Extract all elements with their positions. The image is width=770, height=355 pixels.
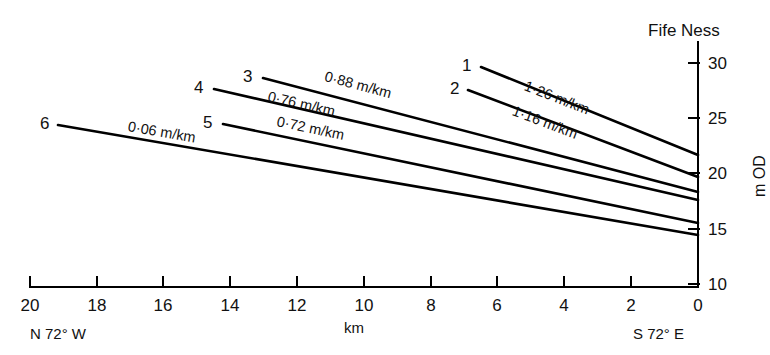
x-tick-label-8: 8 [426, 297, 435, 314]
shoreline-diagram-svg [0, 0, 770, 355]
x-tick-label-14: 14 [221, 297, 240, 314]
y-tick-label-20: 20 [708, 165, 727, 182]
figure-root: Fife Ness 30 25 20 15 10 m OD 20 18 16 1… [0, 0, 770, 355]
shoreline-label-2: 2 [450, 80, 459, 97]
bearing-right-label: S 72° E [633, 326, 684, 341]
bearing-left-label: N 72° W [30, 326, 86, 341]
shoreline-label-4: 4 [194, 79, 203, 96]
y-tick-label-10: 10 [708, 276, 727, 293]
shoreline-label-5: 5 [203, 114, 212, 131]
shoreline-label-6: 6 [40, 115, 49, 132]
y-tick-label-15: 15 [708, 221, 727, 238]
x-axis-title: km [344, 320, 364, 335]
y-tick-label-30: 30 [708, 55, 727, 72]
x-tick-label-4: 4 [559, 297, 568, 314]
y-tick-label-25: 25 [708, 110, 727, 127]
x-tick-label-16: 16 [154, 297, 173, 314]
x-tick-label-0: 0 [693, 297, 702, 314]
y-axis-title: m OD [752, 155, 768, 197]
shoreline-label-3: 3 [243, 68, 252, 85]
x-tick-label-10: 10 [355, 297, 374, 314]
shoreline-label-1: 1 [462, 57, 471, 74]
x-tick-label-20: 20 [21, 297, 40, 314]
x-tick-label-18: 18 [88, 297, 107, 314]
site-title: Fife Ness [648, 22, 720, 39]
x-tick-label-12: 12 [288, 297, 307, 314]
x-tick-label-2: 2 [626, 297, 635, 314]
x-tick-label-6: 6 [492, 297, 501, 314]
